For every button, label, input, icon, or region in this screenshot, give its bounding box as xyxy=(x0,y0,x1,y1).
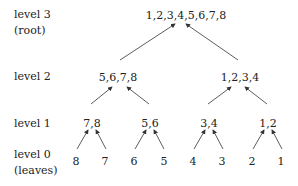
level2-node: 1,2,3,4 xyxy=(221,71,259,84)
level1-node: 1,2 xyxy=(259,117,277,130)
leaf-node: 5 xyxy=(161,155,168,168)
root-node: 1,2,3,4,5,6,7,8 xyxy=(146,9,226,22)
level1-node: 7,8 xyxy=(83,117,101,130)
edge-l2b-root xyxy=(186,24,238,60)
leaf-node: 7 xyxy=(102,155,109,168)
leaf-node: 4 xyxy=(190,155,197,168)
level-3-sub: (root) xyxy=(14,24,46,38)
level-3-label: level 3 xyxy=(14,8,51,22)
level1-node: 3,4 xyxy=(200,117,218,130)
level-2-label: level 2 xyxy=(14,70,51,84)
level-0-sub: (leaves) xyxy=(14,164,58,178)
leaf-node: 8 xyxy=(73,155,80,168)
level-1-label: level 1 xyxy=(14,117,51,131)
leaf-node: 6 xyxy=(131,155,138,168)
leaf-node: 1 xyxy=(278,155,285,168)
level2-node: 5,6,7,8 xyxy=(99,71,137,84)
level-0-label: level 0 xyxy=(14,148,51,162)
level1-node: 5,6 xyxy=(141,117,159,130)
edge-l2a-root xyxy=(120,24,175,60)
leaf-node: 2 xyxy=(249,155,256,168)
leaf-node: 3 xyxy=(219,155,226,168)
